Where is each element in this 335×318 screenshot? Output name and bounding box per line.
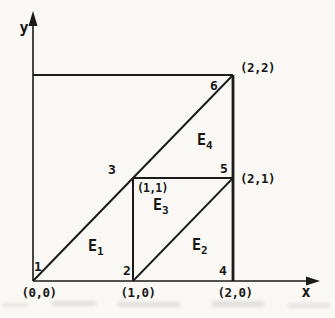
mesh-diagram: y x 1 2 3 4 5 6 (0,0) (1,0) (2,0) (1,1) …: [0, 0, 335, 318]
element-e2-label-base: E: [192, 236, 201, 254]
coord-label-2-1: (2,1): [240, 171, 275, 186]
element-e3-label-base: E: [153, 196, 162, 214]
element-e1-label-base: E: [88, 237, 97, 255]
coord-label-1-1: (1,1): [137, 181, 168, 195]
coord-label-1-0: (1,0): [120, 285, 155, 300]
coord-label-2-2: (2,2): [240, 60, 275, 75]
scan-artifacts: [2, 301, 330, 308]
element-e3-label-sub: 3: [162, 204, 169, 217]
y-axis-label: y: [19, 19, 28, 37]
element-e4-label: E4: [197, 131, 213, 152]
node-5-number: 5: [220, 161, 228, 176]
coord-label-2-0: (2,0): [217, 285, 252, 300]
axes: [29, 11, 321, 286]
element-e3-label: E3: [153, 196, 169, 217]
element-e2-label: E2: [192, 236, 208, 257]
node-4-number: 4: [219, 263, 227, 278]
node-2-number: 2: [123, 263, 131, 278]
element-e1-label: E1: [88, 237, 104, 258]
mesh-diagram-canvas: y x 1 2 3 4 5 6 (0,0) (1,0) (2,0) (1,1) …: [0, 0, 335, 318]
element-e4-label-sub: 4: [206, 139, 213, 152]
coord-label-0-0: (0,0): [21, 285, 56, 300]
element-e2-label-sub: 2: [201, 244, 208, 257]
element-e1-label-sub: 1: [97, 245, 104, 258]
node-1-number: 1: [34, 259, 42, 274]
y-axis-arrow-icon: [29, 11, 38, 26]
x-axis-label: x: [301, 283, 310, 301]
element-e4-label-base: E: [197, 131, 206, 149]
node-3-number: 3: [108, 162, 116, 177]
node-6-number: 6: [210, 78, 218, 93]
